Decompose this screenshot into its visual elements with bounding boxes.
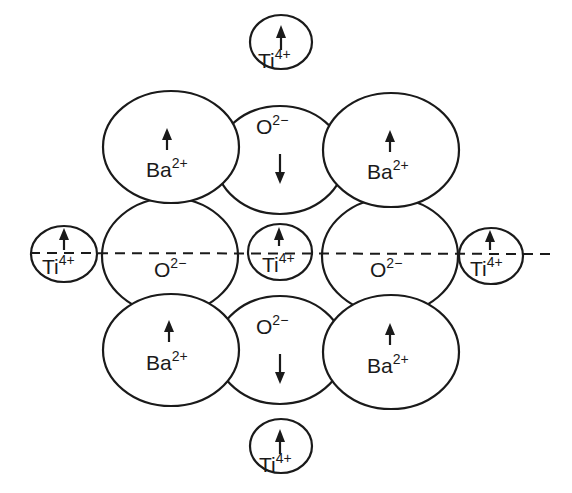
ti-ion-bottom: Ti4+ bbox=[250, 419, 312, 476]
ba-ion-top-right: Ba2+ bbox=[323, 93, 459, 207]
ba-ion-bottom-left: Ba2+ bbox=[103, 294, 239, 406]
batio3-ion-diagram: O2− O2− Ba2+ Ba2+ Ba2+ Ba2+ bbox=[0, 0, 572, 493]
ba-ion-top-left: Ba2+ bbox=[103, 91, 239, 203]
ba-ion-bottom-right: Ba2+ bbox=[323, 295, 459, 409]
ti-ion-center: Ti4+ bbox=[248, 224, 312, 280]
ti-ion-top: Ti4+ bbox=[250, 15, 312, 72]
ti-ion-right: Ti4+ bbox=[459, 228, 523, 284]
